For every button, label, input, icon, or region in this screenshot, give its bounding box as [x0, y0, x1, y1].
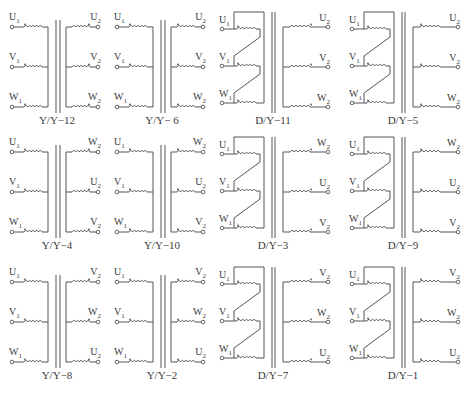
terminal-label: V1	[349, 176, 360, 190]
terminal-icon	[115, 150, 119, 154]
terminal-label: U1	[114, 136, 125, 150]
polarity-dot-icon	[367, 188, 369, 190]
terminal-label: W1	[9, 91, 22, 105]
terminal-label: U1	[114, 11, 125, 25]
terminal-label: U2	[195, 346, 206, 360]
connection-group-caption: D/Y−1	[388, 369, 419, 381]
terminal-label: V2	[449, 52, 460, 66]
polarity-dot-icon	[310, 359, 312, 361]
terminal-label: W2	[447, 137, 460, 151]
polarity-dot-icon	[237, 281, 239, 283]
terminal-label: V2	[90, 51, 101, 65]
winding-coil-icon	[72, 150, 90, 152]
terminal-icon	[350, 101, 354, 105]
winding-coil-icon	[237, 356, 256, 358]
terminal-label: V2	[319, 52, 330, 66]
terminal-icon	[96, 360, 100, 364]
terminal-label: V1	[9, 176, 20, 190]
polarity-dot-icon	[24, 229, 26, 231]
terminal-label: W1	[114, 346, 127, 360]
polarity-dot-icon	[177, 149, 179, 151]
terminal-icon	[350, 319, 354, 323]
terminal-label: V2	[195, 51, 206, 65]
winding-coil-icon	[72, 25, 90, 27]
terminal-label: W2	[447, 307, 460, 321]
terminal-icon	[96, 190, 100, 194]
terminal-icon	[96, 65, 100, 69]
terminal-label: V2	[319, 267, 330, 281]
polarity-dot-icon	[237, 355, 239, 357]
polarity-dot-icon	[129, 229, 131, 231]
terminal-icon	[115, 320, 119, 324]
terminal-label: W1	[9, 216, 22, 230]
polarity-dot-icon	[24, 279, 26, 281]
terminal-icon	[456, 105, 460, 109]
terminal-icon	[220, 226, 224, 230]
terminal-icon	[456, 65, 460, 69]
polarity-dot-icon	[129, 319, 131, 321]
terminal-icon	[115, 280, 119, 284]
terminal-label: V2	[90, 216, 101, 230]
terminal-icon	[326, 25, 330, 29]
polarity-dot-icon	[420, 229, 422, 231]
winding-coil-icon	[237, 101, 256, 103]
winding-coil-icon	[290, 230, 310, 232]
terminal-icon	[115, 25, 119, 29]
polarity-dot-icon	[88, 319, 90, 321]
terminal-icon	[456, 190, 460, 194]
winding-coil-icon	[290, 25, 310, 27]
terminal-label: V1	[219, 176, 230, 190]
polarity-dot-icon	[310, 189, 312, 191]
terminal-icon	[10, 150, 14, 154]
polarity-dot-icon	[420, 64, 422, 66]
winding-coil-icon	[367, 152, 386, 154]
connection-group-caption: Y/Y− 6	[145, 114, 179, 126]
terminal-label: W2	[317, 137, 330, 151]
winding-coil-icon	[177, 320, 195, 322]
terminal-icon	[456, 25, 460, 29]
diagram-yy4: U1V1W1W2U2V2Y/Y−4	[9, 136, 102, 251]
terminal-icon	[326, 65, 330, 69]
polarity-dot-icon	[129, 24, 131, 26]
connection-group-caption: Y/Y−8	[42, 369, 73, 381]
terminal-icon	[326, 150, 330, 154]
diagram-dy7: U1V1W1V2W2U2D/Y−7	[219, 267, 331, 381]
polarity-dot-icon	[88, 24, 90, 26]
terminal-label: W2	[317, 92, 330, 106]
winding-coil-icon	[420, 360, 440, 362]
terminal-label: W2	[193, 91, 206, 105]
terminal-label: W1	[349, 213, 362, 227]
terminal-label: U2	[90, 176, 101, 190]
polarity-dot-icon	[420, 319, 422, 321]
terminal-label: U2	[449, 347, 460, 361]
terminal-label: W2	[193, 306, 206, 320]
winding-coil-icon	[72, 320, 90, 322]
winding-coil-icon	[367, 189, 386, 191]
connection-group-caption: D/Y−5	[388, 114, 419, 126]
winding-coil-icon	[177, 280, 195, 282]
winding-coil-icon	[177, 190, 195, 192]
terminal-icon	[326, 320, 330, 324]
terminal-label: W1	[219, 213, 232, 227]
winding-coil-icon	[420, 105, 440, 107]
terminal-icon	[201, 280, 205, 284]
polarity-dot-icon	[129, 104, 131, 106]
polarity-dot-icon	[177, 359, 179, 361]
terminal-icon	[220, 152, 224, 156]
terminal-icon	[10, 190, 14, 194]
polarity-dot-icon	[367, 318, 369, 320]
terminal-label: U1	[349, 139, 360, 153]
terminal-label: W1	[9, 346, 22, 360]
winding-coil-icon	[367, 226, 386, 228]
terminal-label: V1	[219, 306, 230, 320]
winding-coil-icon	[24, 105, 42, 107]
terminal-label: U1	[349, 269, 360, 283]
terminal-label: U2	[319, 12, 330, 26]
polarity-dot-icon	[24, 359, 26, 361]
polarity-dot-icon	[420, 279, 422, 281]
terminal-label: U2	[90, 346, 101, 360]
terminal-label: W1	[349, 88, 362, 102]
winding-coil-icon	[367, 64, 386, 66]
winding-coil-icon	[177, 65, 195, 67]
terminal-icon	[201, 320, 205, 324]
